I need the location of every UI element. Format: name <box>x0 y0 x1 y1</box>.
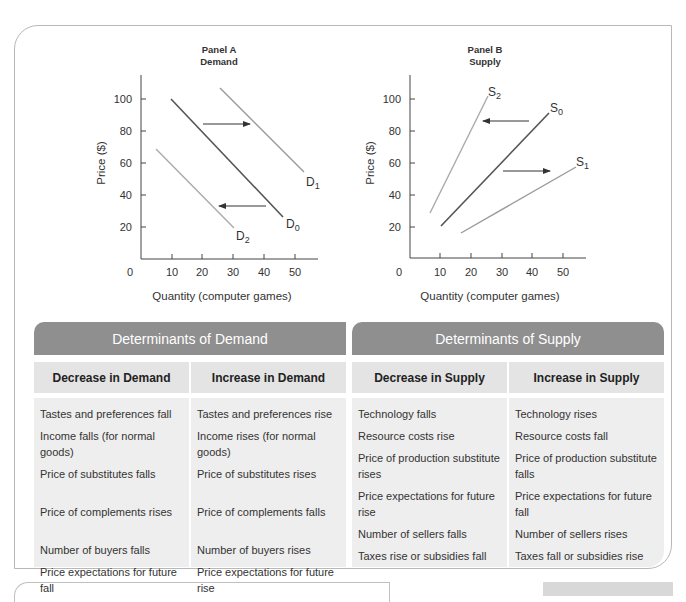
panel-b-x-axis-label: Quantity (computer games) <box>420 290 560 302</box>
y-tick-label: 80 <box>120 125 132 137</box>
panel-b-y-axis-label: Price ($) <box>364 141 376 185</box>
next-section-box <box>14 582 390 602</box>
table-cell: Taxes rise or subsidies fall <box>358 548 501 564</box>
origin-label: 0 <box>396 266 402 278</box>
table-cell: Income rises (for normal goods) <box>197 428 340 460</box>
y-tick-label: 100 <box>114 93 132 105</box>
x-tick-label: 50 <box>557 266 569 278</box>
table-cell: Price of substitutes falls <box>40 466 183 482</box>
demand-curve-d0 <box>171 99 283 217</box>
supply-curve-s1 <box>461 167 576 233</box>
table-cell: Number of sellers rises <box>515 526 658 542</box>
origin-label: 0 <box>127 266 133 278</box>
panel-b-title-line1: Panel B <box>468 44 503 55</box>
table-cell: Technology falls <box>358 406 501 422</box>
column-decrease-supply: Technology falls Resource costs rise Pri… <box>352 398 507 567</box>
table-cell: Price of substitutes rises <box>197 466 340 482</box>
charts-canvas: Panel A Demand 100 80 60 40 20 0 10 20 3… <box>0 0 686 320</box>
panel-a-title-line2: Demand <box>200 56 238 67</box>
y-tick-label: 60 <box>389 157 401 169</box>
x-tick-label: 10 <box>166 266 178 278</box>
y-tick-label: 80 <box>389 125 401 137</box>
table-cell: Number of buyers rises <box>197 542 340 558</box>
supply-curve-s2 <box>430 96 488 213</box>
y-tick-label: 100 <box>383 93 401 105</box>
curve-label-s2: S2 <box>488 85 501 101</box>
curve-label-s1: S1 <box>576 155 589 171</box>
table-cell-continuation: rises <box>358 466 501 482</box>
column-increase-supply: Technology rises Resource costs fall Pri… <box>509 398 664 567</box>
x-tick-label: 30 <box>227 266 239 278</box>
table-cell: Technology rises <box>515 406 658 422</box>
x-tick-label: 10 <box>434 266 446 278</box>
table-cell: Price of production substitute <box>515 450 658 466</box>
table-cell-continuation: falls <box>515 466 658 482</box>
column-header-decrease-supply: Decrease in Supply <box>352 362 507 393</box>
table-cell: Price expectations for future <box>358 488 501 504</box>
column-decrease-demand: Tastes and preferences fall Income falls… <box>34 398 189 567</box>
x-tick-label: 20 <box>465 266 477 278</box>
table-cell: Price of production substitute <box>358 450 501 466</box>
next-section-tab <box>543 582 673 596</box>
curve-label-d1: D1 <box>306 175 320 191</box>
table-cell: Tastes and preferences fall <box>40 406 183 422</box>
panel-a-y-axis-label: Price ($) <box>95 141 107 185</box>
x-tick-label: 50 <box>289 266 301 278</box>
table-cell: Number of sellers falls <box>358 526 501 542</box>
x-tick-label: 40 <box>258 266 270 278</box>
supply-group-header: Determinants of Supply <box>352 322 664 355</box>
column-increase-demand: Tastes and preferences rise Income rises… <box>191 398 346 567</box>
x-tick-label: 20 <box>196 266 208 278</box>
y-tick-label: 40 <box>120 189 132 201</box>
y-tick-label: 40 <box>389 189 401 201</box>
determinants-table: Determinants of Demand Determinants of S… <box>34 322 664 567</box>
table-cell: Resource costs rise <box>358 428 501 444</box>
panel-b-y-ticks <box>410 99 415 227</box>
y-tick-label: 20 <box>389 221 401 233</box>
panel-b-supply-chart: Panel B Supply 100 80 60 40 20 0 10 20 3… <box>364 44 589 302</box>
table-cell: Price of complements rises <box>40 504 183 520</box>
column-header-row: Decrease in Demand Increase in Demand De… <box>34 362 664 393</box>
panel-a-demand-chart: Panel A Demand 100 80 60 40 20 0 10 20 3… <box>95 44 320 302</box>
table-cell: Price of complements falls <box>197 504 340 520</box>
group-header-row: Determinants of Demand Determinants of S… <box>34 322 664 355</box>
panel-b-title-line2: Supply <box>469 56 501 67</box>
curve-label-d0: D0 <box>286 217 300 233</box>
demand-curve-d2 <box>156 149 234 228</box>
table-cell-continuation: rise <box>358 504 501 520</box>
table-cell: Number of buyers falls <box>40 542 183 558</box>
table-cell: Tastes and preferences rise <box>197 406 340 422</box>
column-header-increase-supply: Increase in Supply <box>509 362 664 393</box>
supply-curve-s0 <box>441 113 549 226</box>
demand-curve-d1 <box>220 88 304 172</box>
y-tick-label: 60 <box>120 157 132 169</box>
column-header-decrease-demand: Decrease in Demand <box>34 362 189 393</box>
table-cell: Price expectations for future <box>515 488 658 504</box>
x-tick-label: 40 <box>526 266 538 278</box>
table-cell: Resource costs fall <box>515 428 658 444</box>
x-tick-label: 30 <box>496 266 508 278</box>
column-header-increase-demand: Increase in Demand <box>191 362 346 393</box>
curve-label-d2: D2 <box>236 229 250 245</box>
panel-a-y-ticks <box>141 99 146 227</box>
table-cell: Taxes fall or subsidies rise <box>515 548 658 564</box>
table-body-row: Tastes and preferences fall Income falls… <box>34 398 664 567</box>
table-cell-continuation: fall <box>515 504 658 520</box>
y-tick-label: 20 <box>120 221 132 233</box>
panel-a-x-axis-label: Quantity (computer games) <box>152 290 292 302</box>
curve-label-s0: S0 <box>550 101 563 117</box>
demand-group-header: Determinants of Demand <box>34 322 346 355</box>
table-cell: Income falls (for normal goods) <box>40 428 183 460</box>
panel-b-x-ticks <box>440 253 563 258</box>
panel-a-title-line1: Panel A <box>202 44 237 55</box>
panel-a-x-ticks <box>172 254 295 259</box>
